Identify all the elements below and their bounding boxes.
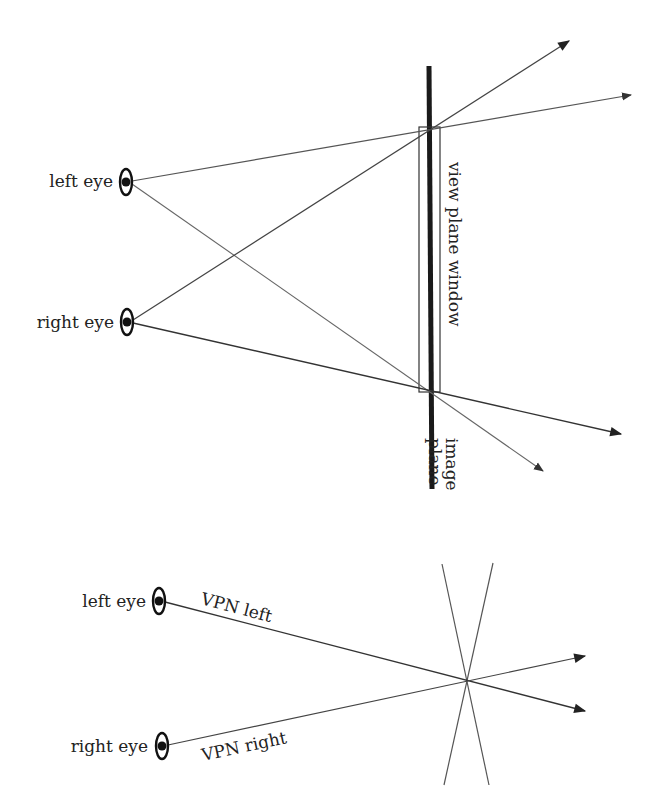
plane-line-b <box>444 563 493 785</box>
eye-icon <box>120 169 132 195</box>
left-eye-label: left eye <box>49 171 113 191</box>
vpn-right-label: VPN right <box>199 727 289 765</box>
image-plane-label-box: image plane <box>426 438 460 498</box>
image-plane-label-image: image <box>443 438 460 498</box>
bottom-diagram: left eye right eye VPN left VPN right <box>71 563 585 785</box>
stereo-viewing-diagram: left eye right eye view plane window ima… <box>0 0 650 808</box>
view-plane-window-label: view plane window <box>445 161 465 327</box>
right-eye-label: right eye <box>37 312 114 332</box>
image-plane-label-plane-text: plane <box>426 438 443 498</box>
eye-icon <box>153 588 165 614</box>
ray-left-eye-lower <box>132 184 543 471</box>
ray-right-eye-upper <box>133 41 569 320</box>
eye-icon <box>121 309 133 335</box>
top-diagram: left eye right eye view plane window ima… <box>37 41 631 489</box>
ray-right-eye-lower <box>133 323 621 434</box>
vpn-right-ray <box>168 656 585 745</box>
plane-line-a <box>442 564 489 785</box>
eye-icon <box>156 733 168 759</box>
bottom-left-eye-label: left eye <box>82 591 146 611</box>
bottom-right-eye-label: right eye <box>71 736 148 756</box>
ray-left-eye-upper <box>132 95 631 181</box>
vpn-left-ray <box>165 602 585 711</box>
